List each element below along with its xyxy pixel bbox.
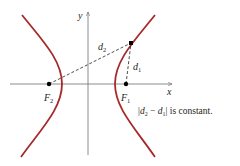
- f2-label: F2: [43, 92, 53, 104]
- focus-f2-point: [47, 82, 51, 86]
- d2-label: d2: [98, 41, 106, 53]
- focus-f1-point: [124, 82, 128, 86]
- caption: |d2 − d1| is constant.: [138, 106, 213, 117]
- f1-label: F1: [120, 92, 130, 104]
- hyperbola-left-branch: [21, 15, 62, 157]
- d1-label: d1: [133, 61, 141, 73]
- d2-line: [49, 43, 131, 84]
- hyperbola-right-branch: [115, 15, 155, 157]
- point-p: [129, 41, 133, 45]
- x-axis-label: x: [166, 86, 172, 97]
- hyperbola-diagram: y x d2 d1 F2 F1 |d2 − d1| is constant.: [0, 0, 240, 166]
- y-axis-label: y: [77, 10, 83, 21]
